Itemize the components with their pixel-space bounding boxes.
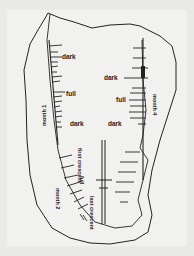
label-month-1: month 1 [41, 105, 47, 126]
bone-diagram: dark full dark month 1 dark full dark mo… [0, 0, 194, 256]
right-tally-marks [124, 48, 148, 124]
inner-groove [47, 14, 148, 228]
label-full-lower: full [79, 176, 85, 185]
label-dark-right-bottom: dark [108, 120, 122, 127]
label-month-2: month 2 [55, 188, 61, 209]
label-dark-mid-left: dark [70, 120, 84, 127]
label-month-4: month 4 [152, 94, 158, 116]
label-last-crescent: last crescent [89, 196, 95, 230]
label-full-left: full [66, 90, 76, 97]
label-dark-top-left: dark [62, 53, 76, 60]
label-dark-right-top: dark [104, 74, 118, 81]
bone-outline [24, 13, 176, 244]
lower-right-marks [115, 152, 140, 202]
label-full-right: full [116, 96, 126, 103]
